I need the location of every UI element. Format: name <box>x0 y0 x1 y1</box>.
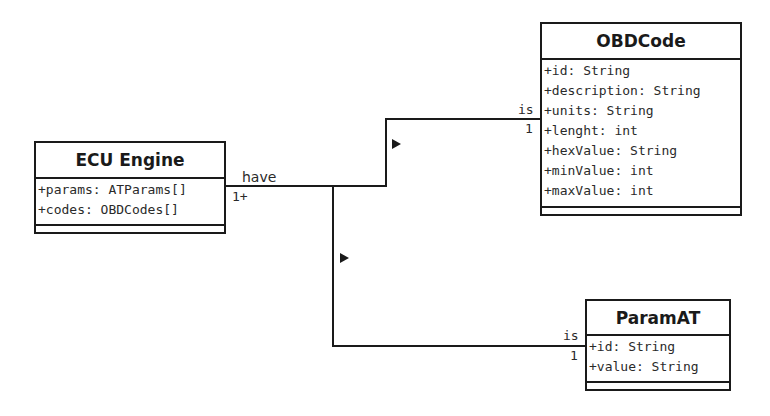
class-name: ECU Engine <box>36 143 224 179</box>
attribute: +id: String <box>544 61 738 81</box>
class-name: ParamAT <box>587 301 729 336</box>
attribute: +maxValue: int <box>544 181 738 201</box>
direction-arrow-icon <box>392 139 401 149</box>
association-label-have: have <box>242 169 276 185</box>
attribute: +codes: OBDCodes[] <box>38 200 222 220</box>
attribute-list: +params: ATParams[] +codes: OBDCodes[] <box>36 179 224 226</box>
attribute: +units: String <box>544 101 738 121</box>
multiplicity-ecu: 1+ <box>232 189 248 204</box>
attribute: +hexValue: String <box>544 141 738 161</box>
class-name: OBDCode <box>542 24 740 60</box>
attribute: +description: String <box>544 81 738 101</box>
attribute: +lenght: int <box>544 121 738 141</box>
attribute: +id: String <box>589 337 727 357</box>
role-paramat: is <box>563 328 579 343</box>
attribute: +minValue: int <box>544 161 738 181</box>
attribute-list: +id: String +description: String +units:… <box>542 60 740 208</box>
class-paramat[interactable]: ParamAT +id: String +value: String <box>585 299 731 391</box>
attribute: +value: String <box>589 357 727 377</box>
multiplicity-paramat: 1 <box>570 348 578 363</box>
direction-arrow-icon <box>340 253 349 263</box>
role-obdcode: is <box>518 102 534 117</box>
attribute-list: +id: String +value: String <box>587 336 729 383</box>
multiplicity-obdcode: 1 <box>525 121 533 136</box>
attribute: +params: ATParams[] <box>38 180 222 200</box>
class-ecu-engine[interactable]: ECU Engine +params: ATParams[] +codes: O… <box>34 141 226 234</box>
class-obdcode[interactable]: OBDCode +id: String +description: String… <box>540 22 742 216</box>
